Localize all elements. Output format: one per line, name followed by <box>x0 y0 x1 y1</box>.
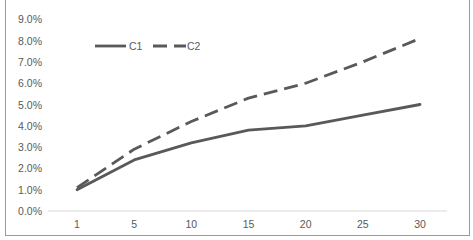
series-c1-line <box>77 105 420 190</box>
y-tick-label: 7.0% <box>18 56 42 68</box>
legend: C1C2 <box>95 40 201 52</box>
y-tick-label: 9.0% <box>18 13 42 25</box>
y-tick-label: 0.0% <box>18 205 42 217</box>
y-tick-label: 5.0% <box>18 99 42 111</box>
y-tick-label: 6.0% <box>18 77 42 89</box>
x-tick-label: 1 <box>74 218 80 230</box>
x-tick-label: 15 <box>243 218 255 230</box>
y-tick-label: 3.0% <box>18 141 42 153</box>
x-axis: 151015202530 <box>74 218 426 230</box>
x-tick-label: 20 <box>300 218 312 230</box>
x-tick-label: 25 <box>357 218 369 230</box>
y-tick-label: 8.0% <box>18 35 42 47</box>
line-chart: 0.0%1.0%2.0%3.0%4.0%5.0%6.0%7.0%8.0%9.0%… <box>0 0 473 240</box>
legend-label-c2: C2 <box>187 40 201 52</box>
x-tick-label: 10 <box>185 218 197 230</box>
legend-label-c1: C1 <box>129 40 143 52</box>
x-tick-label: 30 <box>414 218 426 230</box>
y-tick-label: 4.0% <box>18 120 42 132</box>
y-tick-label: 2.0% <box>18 162 42 174</box>
y-tick-label: 1.0% <box>18 184 42 196</box>
y-axis: 0.0%1.0%2.0%3.0%4.0%5.0%6.0%7.0%8.0%9.0% <box>18 13 42 217</box>
series-group <box>77 39 420 190</box>
x-tick-label: 5 <box>131 218 137 230</box>
